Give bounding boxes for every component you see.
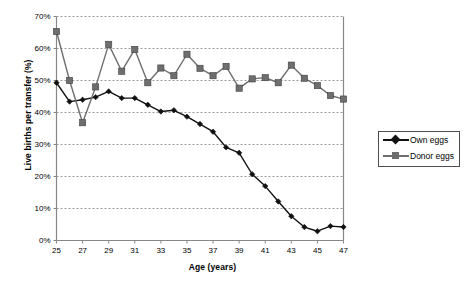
chart-legend: Own eggs Donor eggs bbox=[378, 131, 460, 167]
chart-figure: Live births per transfer (%) Age (years)… bbox=[0, 0, 466, 281]
data-point-own-eggs bbox=[341, 224, 346, 229]
data-point-donor-eggs bbox=[275, 80, 281, 86]
y-tick-label: 60% bbox=[21, 45, 51, 53]
x-tick-label: 37 bbox=[203, 247, 223, 255]
data-point-donor-eggs bbox=[79, 120, 85, 126]
x-tick-label: 47 bbox=[334, 247, 354, 255]
data-point-donor-eggs bbox=[66, 77, 72, 83]
data-point-own-eggs bbox=[106, 89, 111, 94]
data-point-donor-eggs bbox=[93, 84, 99, 90]
y-tick-label: 10% bbox=[21, 205, 51, 213]
data-point-donor-eggs bbox=[158, 65, 164, 71]
data-point-donor-eggs bbox=[171, 73, 177, 79]
y-tick-label: 20% bbox=[21, 173, 51, 181]
data-point-donor-eggs bbox=[53, 28, 59, 34]
data-point-donor-eggs bbox=[288, 62, 294, 68]
x-tick-label: 27 bbox=[73, 247, 93, 255]
series-line-donor-eggs bbox=[57, 32, 344, 123]
legend-item-donor-eggs: Donor eggs bbox=[379, 148, 459, 164]
y-tick-label: 30% bbox=[21, 141, 51, 149]
series-line-own-eggs bbox=[57, 83, 344, 231]
data-point-own-eggs bbox=[93, 94, 98, 99]
data-point-donor-eggs bbox=[327, 92, 333, 98]
data-point-own-eggs bbox=[171, 108, 176, 113]
x-tick-label: 25 bbox=[47, 247, 67, 255]
data-point-own-eggs bbox=[132, 95, 137, 100]
x-tick-label: 35 bbox=[177, 247, 197, 255]
data-point-donor-eggs bbox=[301, 75, 307, 81]
data-point-own-eggs bbox=[158, 109, 163, 114]
data-point-donor-eggs bbox=[132, 46, 138, 52]
x-tick-label: 39 bbox=[229, 247, 249, 255]
data-point-donor-eggs bbox=[197, 65, 203, 71]
x-tick-label: 41 bbox=[255, 247, 275, 255]
data-point-own-eggs bbox=[80, 97, 85, 102]
data-point-donor-eggs bbox=[236, 85, 242, 91]
y-tick-label: 50% bbox=[21, 77, 51, 85]
data-point-own-eggs bbox=[145, 102, 150, 107]
y-tick-label: 40% bbox=[21, 109, 51, 117]
data-point-donor-eggs bbox=[145, 80, 151, 86]
x-tick-label: 33 bbox=[151, 247, 171, 255]
legend-marker-square-icon bbox=[383, 149, 409, 163]
data-point-donor-eggs bbox=[340, 96, 346, 102]
data-point-donor-eggs bbox=[106, 41, 112, 47]
data-point-donor-eggs bbox=[210, 73, 216, 79]
data-point-donor-eggs bbox=[314, 83, 320, 89]
x-tick-label: 31 bbox=[125, 247, 145, 255]
legend-item-own-eggs: Own eggs bbox=[379, 132, 459, 148]
data-point-own-eggs bbox=[315, 229, 320, 234]
x-tick-label: 43 bbox=[281, 247, 301, 255]
legend-label-donor-eggs: Donor eggs bbox=[409, 152, 454, 161]
data-point-donor-eggs bbox=[262, 75, 268, 81]
data-point-donor-eggs bbox=[249, 76, 255, 82]
legend-marker-diamond-icon bbox=[383, 133, 409, 147]
data-point-donor-eggs bbox=[119, 68, 125, 74]
data-point-own-eggs bbox=[328, 223, 333, 228]
x-tick-label: 45 bbox=[307, 247, 327, 255]
y-tick-label: 70% bbox=[21, 13, 51, 21]
data-point-donor-eggs bbox=[223, 63, 229, 69]
data-point-donor-eggs bbox=[184, 51, 190, 57]
data-point-own-eggs bbox=[184, 114, 189, 119]
data-point-own-eggs bbox=[119, 95, 124, 100]
x-tick-label: 29 bbox=[99, 247, 119, 255]
y-tick-label: 0% bbox=[21, 237, 51, 245]
legend-label-own-eggs: Own eggs bbox=[409, 136, 448, 145]
